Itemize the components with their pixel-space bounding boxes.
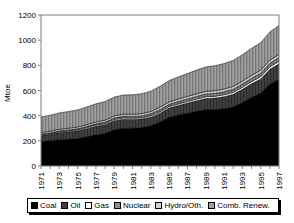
legend-item-comb-renew[interactable]: Comb. Renew. (208, 202, 269, 210)
x-tick-label: 1987 (183, 171, 192, 189)
legend-label-hydro: Hydro/Oth. (164, 202, 203, 210)
legend-item-hydro[interactable]: Hydro/Oth. (155, 202, 203, 210)
x-tick-label: 1973 (55, 171, 64, 189)
stacked-area-chart: 020040060080010001200 197119731975197719… (0, 0, 294, 223)
legend-item-gas[interactable]: Gas (85, 202, 109, 210)
legend-item-coal[interactable]: Coal (31, 202, 56, 210)
legend-item-nuclear[interactable]: Nuclear (114, 202, 151, 210)
x-tick-label: 1989 (202, 171, 211, 189)
y-tick-label: 400 (23, 112, 37, 121)
chart-container: 020040060080010001200 197119731975197719… (0, 0, 294, 223)
x-tick-label: 1983 (147, 171, 156, 189)
y-axis-label: Mtoe (3, 84, 12, 102)
legend-item-oil[interactable]: Oil (61, 202, 80, 210)
legend-swatch-nuclear (114, 202, 121, 209)
legend-label-nuclear: Nuclear (123, 202, 151, 210)
x-tick-label: 1981 (129, 171, 138, 189)
legend-swatch-coal (31, 202, 38, 209)
x-tick-label: 1985 (165, 171, 174, 189)
legend-label-comb-renew: Comb. Renew. (217, 202, 269, 210)
y-tick-label: 600 (23, 87, 37, 96)
legend-swatch-hydro (155, 202, 162, 209)
y-axis-ticks: 020040060080010001200 (18, 11, 41, 171)
legend-swatch-oil (61, 202, 68, 209)
y-tick-label: 800 (23, 61, 37, 70)
x-tick-label: 1995 (257, 171, 266, 189)
x-tick-label: 1975 (74, 171, 83, 189)
x-tick-label: 1991 (220, 171, 229, 189)
legend-swatch-gas (85, 202, 92, 209)
y-tick-label: 1000 (18, 36, 36, 45)
legend-swatch-comb-renew (208, 202, 215, 209)
y-tick-label: 0 (32, 162, 37, 171)
legend-label-coal: Coal (40, 202, 56, 210)
y-tick-label: 200 (23, 137, 37, 146)
x-axis-ticks: 1971197319751977197919811983198519871989… (37, 166, 284, 190)
y-tick-label: 1200 (18, 11, 36, 20)
legend-label-oil: Oil (70, 202, 80, 210)
chart-legend: Coal Oil Gas Nuclear Hydro/Oth. Comb. Re… (27, 198, 279, 213)
x-tick-label: 1977 (92, 171, 101, 189)
x-tick-label: 1971 (37, 171, 46, 189)
x-tick-label: 1993 (238, 171, 247, 189)
x-tick-label: 1997 (275, 171, 284, 189)
x-tick-label: 1979 (110, 171, 119, 189)
legend-label-gas: Gas (94, 202, 109, 210)
